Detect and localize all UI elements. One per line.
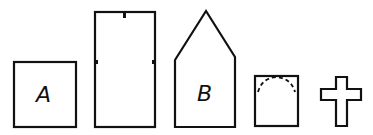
right-mark (152, 60, 155, 64)
shapes-diagram: A B (0, 0, 373, 135)
left-mark (95, 60, 98, 64)
cross (321, 77, 361, 126)
dashed-arc (258, 77, 295, 92)
pentagon-b: B (175, 11, 235, 127)
label-b: B (197, 81, 212, 106)
square-a: A (14, 62, 76, 127)
label-a: A (34, 82, 51, 107)
arched-square (255, 76, 298, 126)
tall-rectangle (95, 12, 155, 127)
top-mark (123, 13, 126, 18)
